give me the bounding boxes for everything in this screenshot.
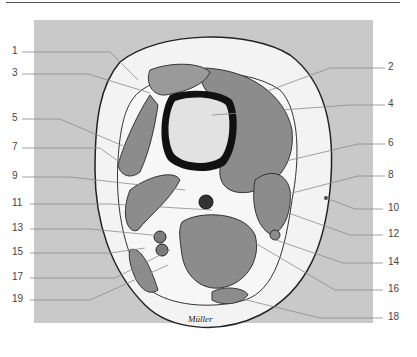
label-4: 4 xyxy=(388,99,394,109)
femur-marrow xyxy=(168,98,229,163)
label-18: 18 xyxy=(388,312,399,322)
label-15: 15 xyxy=(12,247,23,257)
label-19: 19 xyxy=(12,294,23,304)
label-2: 2 xyxy=(388,62,394,72)
thigh-cross-section-diagram: Müller xyxy=(0,0,417,357)
vessel-small-4 xyxy=(270,230,280,240)
femoral-artery xyxy=(199,195,213,209)
vessel-small-1 xyxy=(154,231,166,243)
label-10: 10 xyxy=(388,203,399,213)
label-17: 17 xyxy=(12,272,23,282)
label-13: 13 xyxy=(12,223,23,233)
label-6: 6 xyxy=(388,138,394,148)
label-5: 5 xyxy=(12,113,18,123)
label-16: 16 xyxy=(388,284,399,294)
label-9: 9 xyxy=(12,171,18,181)
artist-signature: Müller xyxy=(187,314,213,324)
label-12: 12 xyxy=(388,229,399,239)
label-11: 11 xyxy=(12,198,22,208)
label-3: 3 xyxy=(12,68,18,78)
label-14: 14 xyxy=(388,257,399,267)
label-7: 7 xyxy=(12,142,18,152)
label-1: 1 xyxy=(12,46,18,56)
label-8: 8 xyxy=(388,170,394,180)
